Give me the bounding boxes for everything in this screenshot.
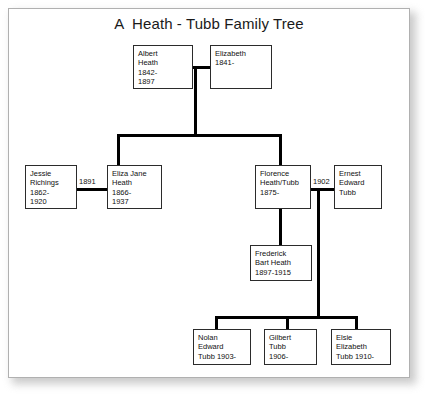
page-title: A Heath - Tubb Family Tree: [8, 15, 410, 32]
person-box-albert-heath: Albert Heath 1842- 1897: [133, 45, 193, 89]
person-box-jessie-richings: Jessie Richings 1862- 1920: [25, 165, 77, 209]
person-name-line: Elsie: [336, 333, 386, 342]
person-name-line: Jessie: [30, 169, 72, 178]
family-tree-canvas: A Heath - Tubb Family Tree Albert Heath …: [0, 0, 425, 396]
person-name-line: Tubb: [269, 342, 312, 351]
person-dates-line: 1897-1915: [255, 268, 307, 277]
person-box-eliza-jane-heath: Eliza Jane Heath 1866- 1937: [107, 165, 162, 209]
person-dates-line: 1875-: [260, 188, 306, 197]
person-name-line: Tubb 1903-: [198, 352, 246, 361]
family-tree-screenshot: A Heath - Tubb Family Tree Albert Heath …: [0, 0, 425, 396]
person-name-line: Heath/Tubb: [260, 178, 306, 187]
marriage-year-jessie-eliza: 1891: [79, 177, 96, 186]
person-dates-line: 1937: [112, 197, 157, 206]
person-box-florence-heath-tubb: Florence Heath/Tubb 1875-: [255, 165, 311, 209]
person-name-line: Frederick: [255, 249, 307, 258]
person-name-line: Edward: [339, 178, 377, 187]
person-name-line: Albert: [138, 49, 188, 58]
descent-line-frederick: [279, 208, 282, 246]
descent-line-gen2-tubb: [317, 188, 320, 318]
person-name-line: Eliza Jane: [112, 169, 157, 178]
person-name-line: Gilbert: [269, 333, 312, 342]
person-box-elsie-elizabeth-tubb: Elsie Elizabeth Tubb 1910-: [331, 329, 391, 365]
person-name-line: Heath: [112, 178, 157, 187]
person-box-nolan-edward-tubb: Nolan Edward Tubb 1903-: [193, 329, 251, 365]
marriage-link-jessie-eliza: [76, 188, 108, 191]
person-name-line: Richings: [30, 178, 72, 187]
sibling-bar-gen2: [117, 134, 282, 137]
person-name-line: Bart Heath: [255, 258, 307, 267]
person-dates-line: 1841-: [215, 58, 267, 67]
person-name-line: Tubb: [339, 188, 377, 197]
descent-line-elsie: [355, 316, 358, 330]
descent-line-gen1: [194, 66, 197, 136]
person-name-line: Elizabeth: [336, 342, 386, 351]
person-name-line: Edward: [198, 342, 246, 351]
person-name-line: Elizabeth: [215, 49, 267, 58]
person-name-line: Heath: [138, 58, 188, 67]
person-name-line: Tubb 1910-: [336, 352, 386, 361]
person-dates-line: 1862-: [30, 188, 72, 197]
descent-line-eliza-jane: [117, 134, 120, 166]
descent-line-gilbert: [286, 316, 289, 330]
person-box-frederick-bart-heath: Frederick Bart Heath 1897-1915: [250, 245, 312, 281]
person-dates-line: 1866-: [112, 188, 157, 197]
person-dates-line: 1842-: [138, 68, 188, 77]
marriage-link-florence-ernest: [310, 188, 335, 191]
person-dates-line: 1920: [30, 197, 72, 206]
person-name-line: Ernest: [339, 169, 377, 178]
person-box-gilbert-tubb: Gilbert Tubb 1906-: [264, 329, 317, 365]
person-dates-line: 1906-: [269, 352, 312, 361]
person-name-line: Nolan: [198, 333, 246, 342]
descent-line-nolan: [215, 316, 218, 330]
descent-line-florence: [279, 134, 282, 166]
person-box-elizabeth: Elizabeth 1841-: [210, 45, 272, 89]
person-name-line: Florence: [260, 169, 306, 178]
person-box-ernest-edward-tubb: Ernest Edward Tubb: [334, 165, 382, 209]
marriage-year-florence-ernest: 1902: [313, 177, 330, 186]
person-dates-line: 1897: [138, 77, 188, 86]
